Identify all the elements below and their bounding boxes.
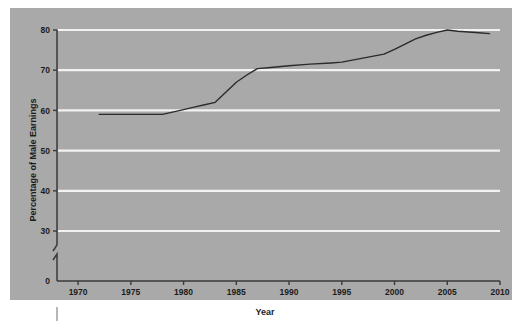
y-tick-label: 40: [41, 186, 51, 196]
x-tick-label: 1970: [69, 287, 88, 297]
y-tick-label: 30: [41, 226, 51, 236]
x-tick-group: 197019751980198519901995200020052010: [69, 281, 510, 297]
y-axis-title: Percentage of Male Earnings: [28, 98, 38, 221]
x-axis-title: Year: [255, 307, 275, 317]
y-tick-label: 80: [41, 25, 51, 35]
x-tick-label: 1990: [280, 287, 299, 297]
y-tick-group: 0304050607080: [41, 25, 57, 286]
x-tick-label: 2010: [491, 287, 510, 297]
x-tick-label: 1980: [174, 287, 193, 297]
x-tick-label: 1995: [332, 287, 351, 297]
gridline-group: [58, 30, 500, 231]
chart-figure: 197019751980198519901995200020052010 030…: [0, 0, 527, 326]
line-chart-plot: 197019751980198519901995200020052010 030…: [0, 0, 527, 326]
y-tick-label: 0: [45, 276, 50, 286]
x-tick-label: 1975: [121, 287, 140, 297]
x-tick-label: 2000: [385, 287, 404, 297]
data-series-line: [99, 30, 489, 114]
y-tick-label: 50: [41, 146, 51, 156]
x-tick-label: 1985: [227, 287, 246, 297]
y-tick-label: 70: [41, 65, 51, 75]
x-tick-label: 2005: [438, 287, 457, 297]
y-tick-label: 60: [41, 106, 51, 116]
